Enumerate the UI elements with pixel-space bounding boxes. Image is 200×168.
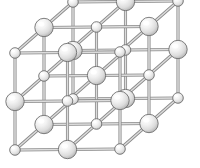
sphere-specular-highlight (172, 44, 178, 49)
sphere-specular-highlight (114, 95, 120, 100)
sphere-specular-highlight (64, 98, 68, 101)
sphere-specular-highlight (117, 49, 121, 52)
sphere-specular-highlight (38, 22, 44, 27)
sphere-specular-highlight (93, 121, 97, 124)
sphere-specular-highlight (146, 72, 150, 75)
sphere-specular-highlight (9, 96, 15, 101)
crystal-lattice-figure: Rock-salt (NaCl-type) crystal lattice (0, 0, 200, 168)
small-ion-sphere (115, 144, 126, 155)
crystal-lattice-diagram: Rock-salt (NaCl-type) crystal lattice (0, 0, 200, 168)
large-ion-sphere (35, 18, 53, 36)
sphere-specular-highlight (62, 47, 68, 52)
small-ion-sphere (10, 145, 21, 156)
small-ion-sphere (68, 0, 79, 7)
sphere-specular-highlight (117, 146, 121, 149)
small-ion-sphere (173, 93, 184, 104)
small-ion-sphere (173, 0, 184, 6)
large-ion-sphere (140, 114, 158, 132)
sphere-specular-highlight (91, 70, 97, 75)
sphere-specular-highlight (12, 147, 16, 150)
sphere-specular-highlight (93, 24, 97, 27)
sphere-specular-highlight (143, 118, 149, 123)
large-ion-sphere (87, 66, 105, 84)
small-ion-sphere (39, 71, 50, 82)
small-ion-sphere (115, 47, 126, 58)
large-ion-sphere (140, 17, 158, 35)
small-ion-sphere (10, 48, 21, 59)
sphere-specular-highlight (62, 144, 68, 149)
sphere-specular-highlight (12, 50, 16, 53)
sphere-specular-highlight (143, 21, 149, 26)
small-ion-sphere (91, 22, 102, 33)
small-ion-sphere (62, 96, 73, 107)
large-ion-sphere (58, 43, 76, 61)
large-ion-sphere (6, 92, 24, 110)
small-ion-sphere (91, 119, 102, 130)
small-ion-sphere (144, 70, 155, 81)
large-ion-sphere (111, 91, 129, 109)
large-ion-sphere (58, 140, 76, 158)
sphere-specular-highlight (38, 119, 44, 124)
sphere-specular-highlight (175, 95, 179, 98)
sphere-specular-highlight (41, 73, 45, 76)
large-ion-sphere (35, 115, 53, 133)
large-ion-sphere (169, 40, 187, 58)
